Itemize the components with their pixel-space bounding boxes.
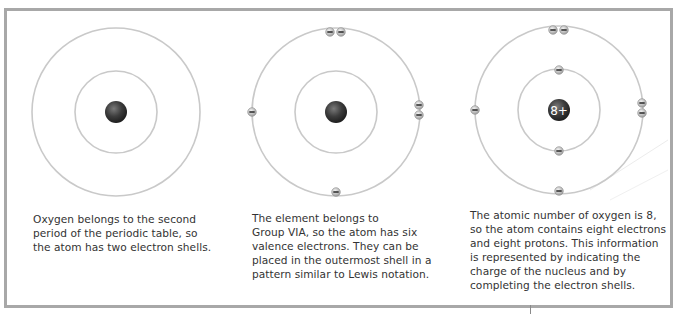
caption-line: Group VIA, so the atom has six bbox=[252, 225, 431, 239]
connector-tick bbox=[530, 305, 531, 314]
electron-icon bbox=[415, 101, 424, 110]
caption-line: valence electrons. They can be bbox=[252, 239, 431, 253]
caption-line: period of the periodic table, so bbox=[33, 226, 211, 240]
caption-line: Oxygen belongs to the second bbox=[33, 212, 211, 226]
electron-icon bbox=[549, 26, 558, 35]
nucleus bbox=[325, 101, 347, 123]
caption-step-3: The atomic number of oxygen is 8, so the… bbox=[470, 208, 666, 292]
atom-step-2 bbox=[248, 28, 424, 197]
electron-icon bbox=[638, 109, 647, 118]
electron-icon bbox=[555, 187, 564, 196]
caption-line: placed in the outermost shell in a bbox=[252, 253, 431, 267]
caption-line: The element belongs to bbox=[252, 211, 431, 225]
atom-step-1 bbox=[32, 28, 200, 196]
electron-icon bbox=[415, 111, 424, 120]
electron-icon bbox=[555, 66, 564, 75]
caption-line: is represented by indicating the bbox=[470, 250, 666, 264]
electron-icon bbox=[332, 188, 341, 197]
atom-step-3: 8+ bbox=[471, 26, 668, 200]
caption-line: and eight protons. This information bbox=[470, 236, 666, 250]
electron-icon bbox=[337, 28, 346, 37]
electron-icon bbox=[560, 26, 569, 35]
caption-line: the atom has two electron shells. bbox=[33, 240, 211, 254]
electron-icon bbox=[555, 147, 564, 156]
electron-icon bbox=[326, 28, 335, 37]
caption-step-2: The element belongs to Group VIA, so the… bbox=[252, 211, 431, 281]
caption-line: The atomic number of oxygen is 8, bbox=[470, 208, 666, 222]
caption-line: charge of the nucleus and by bbox=[470, 264, 666, 278]
caption-line: pattern similar to Lewis notation. bbox=[252, 267, 431, 281]
electron-icon bbox=[471, 106, 480, 115]
caption-line: completing the electron shells. bbox=[470, 278, 666, 292]
electron-icon bbox=[638, 99, 647, 108]
nucleus bbox=[105, 101, 127, 123]
nucleus-charge-label: 8+ bbox=[550, 104, 568, 118]
caption-step-1: Oxygen belongs to the second period of t… bbox=[33, 212, 211, 254]
electron-icon bbox=[248, 108, 257, 117]
caption-line: so the atom contains eight electrons bbox=[470, 222, 666, 236]
